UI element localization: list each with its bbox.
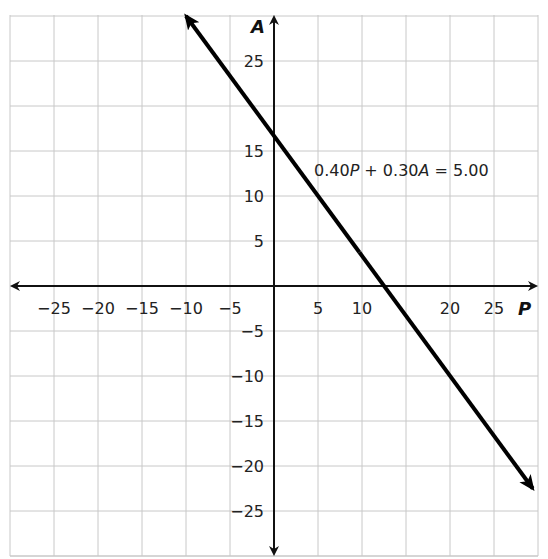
x-axis-title: P	[518, 298, 531, 319]
y-tick-label: −20	[230, 457, 264, 476]
x-tick-label: 25	[484, 299, 504, 318]
axes	[12, 17, 536, 554]
x-tick-label: −20	[81, 299, 115, 318]
x-tick-label: 10	[352, 299, 372, 318]
y-tick-label: 5	[254, 232, 264, 251]
y-tick-label: 10	[244, 187, 264, 206]
equation-label: 0.40P + 0.30A = 5.00	[314, 161, 489, 180]
x-tick-label: 5	[313, 299, 323, 318]
x-tick-label: −10	[169, 299, 203, 318]
x-tick-label: 20	[440, 299, 460, 318]
x-tick-label: −15	[125, 299, 159, 318]
x-tick-label: −25	[37, 299, 71, 318]
line-lower-arrow	[359, 252, 532, 488]
eq-var-a: A	[417, 161, 429, 180]
y-tick-label: −25	[230, 502, 264, 521]
eq-coef-a: + 0.30	[359, 161, 418, 180]
eq-coef-p: 0.40	[314, 161, 350, 180]
y-tick-label: −5	[240, 322, 264, 341]
x-tick-label: −5	[218, 299, 242, 318]
y-tick-label: 25	[244, 52, 264, 71]
coordinate-plane: −25−20−15−10−551020252515105−5−10−15−20−…	[0, 0, 548, 559]
eq-var-p: P	[350, 161, 360, 180]
y-tick-label: −10	[230, 367, 264, 386]
eq-rhs: = 5.00	[429, 161, 488, 180]
y-tick-label: 15	[244, 142, 264, 161]
line-upper-arrow	[186, 16, 359, 252]
y-axis-title: A	[249, 16, 265, 37]
y-tick-label: −15	[230, 412, 264, 431]
